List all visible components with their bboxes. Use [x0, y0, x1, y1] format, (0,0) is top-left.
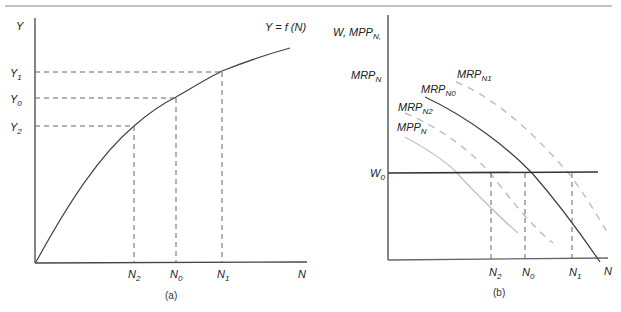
y0-label: Y0: [10, 93, 22, 108]
production-function-curve: [36, 48, 290, 262]
n1-label: N1: [217, 268, 229, 283]
w0-wage-line: [388, 172, 598, 173]
function-label: Y = f (N): [265, 21, 306, 33]
panel-a-y-axis-label: Y: [16, 20, 24, 32]
mpp-n-label: MPPN: [397, 121, 427, 136]
diagram-canvas: Y Y = f (N) Y1 Y0 Y2 N2 N0 N1 N (a) W, M…: [0, 0, 621, 312]
mpp-n-curve: [405, 137, 518, 233]
n1-label-b: N1: [569, 266, 581, 281]
panel-a-caption: (a): [165, 290, 177, 301]
mrp-n0-curve: [425, 97, 600, 262]
mrp-n1-curve: [456, 82, 607, 232]
y2-label: Y2: [10, 121, 22, 136]
panel-b-y-axis-label-1: W, MPPN,: [333, 26, 381, 41]
panel-a-x-axis: [35, 262, 307, 263]
mrp-n1-label: MRPN1: [457, 68, 492, 83]
panel-b-x-axis-label: N: [604, 265, 612, 277]
panel-b: W, MPPN, MRPN MRPN1 MRPN0 MRPN2 MPPN W0 …: [333, 15, 612, 298]
y1-label: Y1: [10, 67, 22, 82]
panel-b-x-axis: [388, 258, 608, 260]
mrp-n0-label: MRPN0: [421, 83, 456, 98]
mrp-n2-curve: [405, 113, 553, 243]
panel-b-y-axis-label-2: MRPN: [351, 69, 381, 84]
w0-label: W0: [370, 167, 385, 182]
panel-b-caption: (b): [493, 287, 505, 298]
n0-label-b: N0: [522, 266, 535, 281]
mrp-n2-label: MRPN2: [398, 101, 433, 116]
n2-label: N2: [128, 268, 141, 283]
n0-label: N0: [170, 268, 183, 283]
panel-a: Y Y = f (N) Y1 Y0 Y2 N2 N0 N1 N (a): [10, 18, 307, 301]
n2-label-b: N2: [489, 266, 502, 281]
panel-a-x-axis-label: N: [298, 268, 306, 280]
